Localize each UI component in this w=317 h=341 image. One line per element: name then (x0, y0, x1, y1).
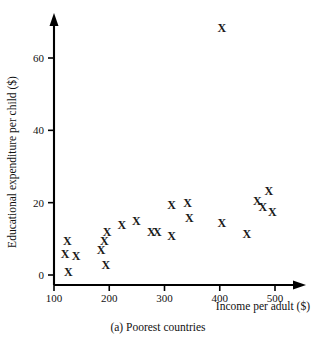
x-tick-label: 200 (101, 292, 118, 304)
data-point-marker: X (132, 214, 141, 228)
data-point-marker: X (259, 200, 268, 214)
data-point-marker: X (153, 225, 162, 239)
data-point-marker: X (268, 205, 277, 219)
data-point-group: XXXXXXXXXXXXXXXXXXXXXXX (61, 21, 277, 279)
scatter-plot-svg: 0204060 100200300400500 XXXXXXXXXXXXXXXX… (0, 0, 317, 341)
data-point-marker: X (167, 229, 176, 243)
x-axis-title: Income per adult ($) (216, 300, 310, 313)
data-point-marker: X (167, 198, 176, 212)
scatter-plot-figure: 0204060 100200300400500 XXXXXXXXXXXXXXXX… (0, 0, 317, 341)
x-tick-label: 300 (156, 292, 173, 304)
data-point-marker: X (97, 243, 106, 257)
data-point-marker: X (61, 247, 70, 261)
y-axis (50, 13, 59, 285)
x-axis (54, 281, 306, 290)
data-point-marker: X (118, 218, 127, 232)
y-tick-label: 40 (33, 124, 45, 136)
data-point-marker: X (218, 216, 227, 230)
y-tick-group: 0204060 (33, 52, 54, 281)
y-tick-label: 0 (39, 269, 45, 281)
data-point-marker: X (265, 184, 274, 198)
y-tick-label: 20 (33, 197, 45, 209)
x-tick-label: 100 (46, 292, 63, 304)
y-axis-arrowhead (50, 13, 59, 26)
x-axis-arrowhead (293, 281, 306, 290)
data-point-marker: X (183, 196, 192, 210)
data-point-marker: X (102, 258, 111, 272)
data-point-marker: X (185, 211, 194, 225)
data-point-marker: X (64, 265, 73, 279)
data-point-marker: X (242, 227, 251, 241)
figure-caption: (a) Poorest countries (110, 321, 206, 334)
y-axis-title: Educational expenditure per child ($) (6, 76, 19, 248)
data-point-marker: X (218, 21, 227, 35)
y-tick-label: 60 (33, 52, 45, 64)
data-point-marker: X (72, 249, 81, 263)
